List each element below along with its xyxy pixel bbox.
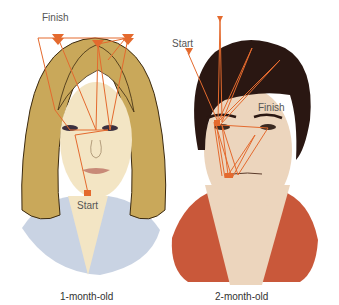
face-skin-left [60,82,132,198]
caption-2-month: 2-month-old [215,291,268,302]
face-1-month [22,34,166,275]
face-2-month [172,16,318,285]
infant-scanpath-illustration [0,0,339,305]
finish-label-right: Finish [258,102,285,113]
finish-label-left: Finish [42,12,69,23]
start-label-right: Start [172,38,193,49]
start-label-left: Start [77,200,98,211]
caption-1-month: 1-month-old [60,291,113,302]
eye-right-2 [260,124,276,130]
